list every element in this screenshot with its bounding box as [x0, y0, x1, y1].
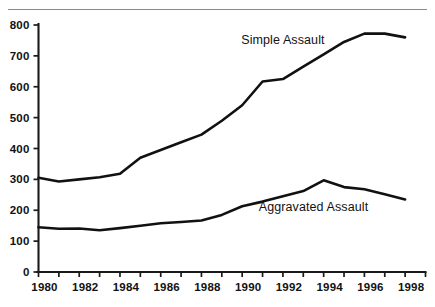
x-tick-label: 1980	[31, 281, 57, 293]
x-axis: 1980198219841986198819901992199419961998	[31, 272, 425, 293]
x-tick-label: 1988	[194, 281, 221, 293]
y-tick-label: 800	[10, 19, 30, 31]
series-label-aggravated-assault: Aggravated Assault	[259, 200, 369, 214]
x-tick-label: 1984	[113, 281, 140, 293]
y-tick-label: 100	[10, 235, 30, 247]
y-tick-label: 200	[10, 204, 30, 216]
chart-figure: 0100200300400500600700800 19801982198419…	[0, 0, 435, 307]
y-tick-label: 400	[10, 143, 30, 155]
assault-rate-line-chart: 0100200300400500600700800 19801982198419…	[0, 0, 435, 307]
series-label-simple-assault: Simple Assault	[241, 33, 325, 47]
series-line-simple-assault	[39, 34, 406, 182]
x-tick-label: 1990	[235, 281, 261, 293]
y-tick-label: 500	[10, 112, 30, 124]
x-tick-label: 1986	[154, 281, 180, 293]
y-tick-label: 0	[23, 266, 30, 278]
x-tick-label: 1996	[357, 281, 383, 293]
y-tick-label: 700	[10, 50, 30, 62]
y-tick-label: 600	[10, 81, 30, 93]
y-axis: 0100200300400500600700800	[10, 19, 39, 278]
x-tick-label: 1992	[276, 281, 302, 293]
x-tick-label: 1998	[398, 281, 425, 293]
x-tick-label: 1982	[72, 281, 98, 293]
y-tick-label: 300	[10, 173, 30, 185]
x-tick-label: 1994	[316, 281, 343, 293]
